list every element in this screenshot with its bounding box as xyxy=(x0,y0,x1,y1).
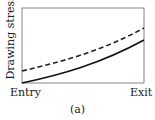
plot-frame xyxy=(22,8,144,83)
x-tick-entry: Entry xyxy=(10,86,41,99)
figure-caption: (a) xyxy=(0,103,155,116)
chart-plot xyxy=(0,0,155,120)
y-axis-label: Drawing stress xyxy=(4,10,17,80)
series-solid xyxy=(22,40,144,83)
x-tick-exit: Exit xyxy=(130,86,152,99)
